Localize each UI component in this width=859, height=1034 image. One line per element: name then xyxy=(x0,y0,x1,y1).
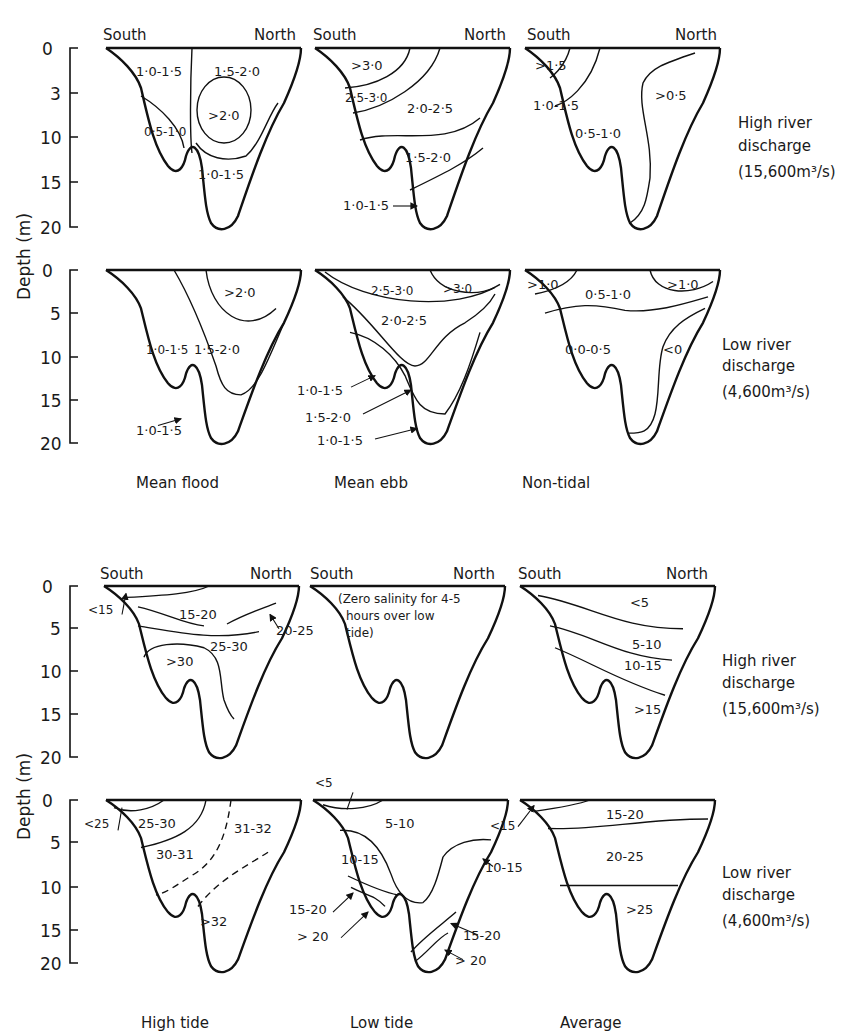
svg-text:South: South xyxy=(518,565,562,583)
svg-text:South: South xyxy=(310,565,354,583)
svg-text:0: 0 xyxy=(42,577,53,597)
headers-upper: South North South North South North xyxy=(103,26,717,44)
svg-text:(15,600m³/s): (15,600m³/s) xyxy=(722,700,820,718)
axis-row1: 0 3 10 15 20 xyxy=(40,39,78,238)
svg-text:25-30: 25-30 xyxy=(138,817,176,832)
tick: 0 xyxy=(42,39,53,59)
svg-text:North: North xyxy=(250,565,292,583)
column-titles-upper: Mean flood Mean ebb Non-tidal xyxy=(136,474,590,492)
depth-axis-label: Depth (m) xyxy=(14,753,34,840)
svg-text:High tide: High tide xyxy=(141,1014,209,1032)
svg-text:>32: >32 xyxy=(200,915,227,930)
south-label: South xyxy=(103,26,147,44)
svg-text:20: 20 xyxy=(40,954,62,974)
svg-text:South: South xyxy=(100,565,144,583)
svg-text:Non-tidal: Non-tidal xyxy=(522,474,590,492)
svg-text:(4,600m³/s): (4,600m³/s) xyxy=(722,383,810,401)
svg-text:2·5-3·0: 2·5-3·0 xyxy=(371,284,413,298)
svg-text:discharge: discharge xyxy=(738,137,811,155)
svg-text:5: 5 xyxy=(50,833,61,853)
panel-mean-ebb-low: 2·5-3·0 >3·0 2·0-2·5 1·0-1·5 1·5-2·0 1·0… xyxy=(297,270,510,448)
svg-text:1·0-1·5: 1·0-1·5 xyxy=(317,433,363,448)
svg-text:1·0-1·5: 1·0-1·5 xyxy=(136,423,182,438)
svg-text:> 20: > 20 xyxy=(455,954,487,969)
condition-row1: High river discharge (15,600m³/s) xyxy=(738,114,836,181)
svg-text:Mean ebb: Mean ebb xyxy=(334,474,408,492)
panel-non-tidal-low: >1·0 0·5-1·0 >1·0 0·0-0·5 <0 xyxy=(525,270,720,444)
svg-text:>30: >30 xyxy=(166,654,193,669)
svg-text:15-20: 15-20 xyxy=(606,807,644,822)
svg-text:10-15: 10-15 xyxy=(341,852,379,867)
tick: 10 xyxy=(40,128,62,148)
column-titles-lower: High tide Low tide Average xyxy=(141,1014,622,1032)
svg-text:>15: >15 xyxy=(634,703,661,718)
north-label: North xyxy=(464,26,506,44)
svg-text:>1·0: >1·0 xyxy=(667,277,699,292)
svg-text:5-10: 5-10 xyxy=(632,637,661,652)
svg-text:10: 10 xyxy=(40,878,62,898)
svg-text:<15: <15 xyxy=(490,820,515,834)
svg-text:1·0-1·5: 1·0-1·5 xyxy=(198,167,244,182)
svg-text:20-25: 20-25 xyxy=(606,849,644,864)
svg-text:<5: <5 xyxy=(630,595,649,610)
svg-text:1·5-2·0: 1·5-2·0 xyxy=(214,64,260,79)
svg-text:<5: <5 xyxy=(315,776,333,790)
panel-non-tidal-high: >1·5 1·0-1·5 >0·5 0·5-1·0 xyxy=(525,48,720,229)
svg-text:0·5-1·0: 0·5-1·0 xyxy=(144,125,187,139)
tick: 10 xyxy=(40,348,62,368)
panel-average-high: <5 5-10 10-15 >15 xyxy=(520,586,715,758)
svg-text:1·0-1·5: 1·0-1·5 xyxy=(533,98,579,113)
axis-row3: 0 5 10 15 20 xyxy=(40,577,78,768)
panel-high-tide-low: <25 25-30 30-31 31-32 >32 xyxy=(84,800,301,972)
svg-text:(4,600m³/s): (4,600m³/s) xyxy=(722,912,810,930)
svg-text:5-10: 5-10 xyxy=(385,817,414,832)
svg-text:<0: <0 xyxy=(663,343,682,358)
svg-text:0·5-1·0: 0·5-1·0 xyxy=(585,287,631,302)
svg-text:> 20: > 20 xyxy=(297,929,329,944)
svg-text:>0·5: >0·5 xyxy=(655,88,687,103)
svg-text:1·5-2·0: 1·5-2·0 xyxy=(305,410,351,425)
svg-text:Low river: Low river xyxy=(722,336,792,354)
svg-text:<25: <25 xyxy=(84,818,109,832)
svg-text:discharge: discharge xyxy=(722,886,795,904)
svg-text:20-25: 20-25 xyxy=(276,624,314,639)
svg-text:15-20: 15-20 xyxy=(179,608,217,623)
svg-text:5: 5 xyxy=(50,619,61,639)
axis-row2: 0 5 10 15 20 xyxy=(40,261,78,454)
svg-text:15: 15 xyxy=(40,705,62,725)
svg-text:discharge: discharge xyxy=(722,674,795,692)
tick: 15 xyxy=(40,173,62,193)
svg-text:1·0-1·5: 1·0-1·5 xyxy=(146,344,188,358)
svg-text:North: North xyxy=(666,565,708,583)
svg-text:20: 20 xyxy=(40,748,62,768)
svg-text:>1·5: >1·5 xyxy=(535,58,567,73)
tick: 20 xyxy=(40,434,62,454)
condition-row2: Low river discharge (4,600m³/s) xyxy=(722,336,810,401)
panel-low-tide-low: <5 5-10 10-15 10-15 15-20 > 20 15-20 > 2… xyxy=(289,776,523,972)
svg-text:Mean flood: Mean flood xyxy=(136,474,219,492)
panel-high-tide-high: <15 15-20 20-25 25-30 >30 xyxy=(88,586,314,758)
svg-text:Low tide: Low tide xyxy=(350,1014,413,1032)
svg-text:>1·0: >1·0 xyxy=(527,277,559,292)
svg-text:(15,600m³/s): (15,600m³/s) xyxy=(738,163,836,181)
svg-text:>3·0: >3·0 xyxy=(443,282,472,296)
condition-row4: Low river discharge (4,600m³/s) xyxy=(722,864,810,930)
svg-text:1·0-1·5: 1·0-1·5 xyxy=(297,383,343,398)
tick: 20 xyxy=(40,218,62,238)
svg-text:2·0-2·5: 2·0-2·5 xyxy=(407,101,453,116)
svg-text:hours over low: hours over low xyxy=(346,609,435,623)
svg-text:0·5-1·0: 0·5-1·0 xyxy=(575,126,621,141)
tick: 0 xyxy=(42,261,53,281)
svg-text:10: 10 xyxy=(40,662,62,682)
estuary-cross-section-figure: South North South North South North 0 3 … xyxy=(0,0,859,1034)
tick: 5 xyxy=(50,304,61,324)
svg-text:1·0-1·5: 1·0-1·5 xyxy=(136,64,182,79)
svg-text:10-15: 10-15 xyxy=(485,861,523,876)
svg-text:tide): tide) xyxy=(346,627,374,641)
panel-mean-flood-low: >2·0 1·0-1·5 1·5-2·0 1·0-1·5 xyxy=(106,270,301,444)
svg-text:30-31: 30-31 xyxy=(156,847,194,862)
north-label: North xyxy=(675,26,717,44)
svg-text:1·5-2·0: 1·5-2·0 xyxy=(194,343,240,358)
svg-text:>3·0: >3·0 xyxy=(351,58,383,73)
svg-text:1·0-1·5: 1·0-1·5 xyxy=(343,198,389,213)
